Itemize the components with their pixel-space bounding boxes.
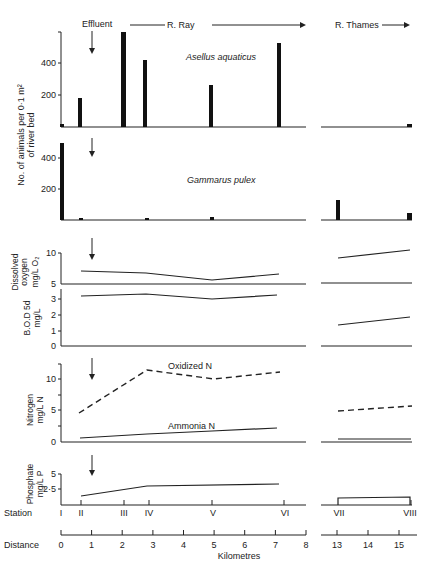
panel-dissolved-oxygen: Dissolved oxygen mg/L O₂ 10 5 [10, 248, 412, 290]
svg-text:II: II [78, 508, 83, 518]
svg-text:III: III [120, 508, 128, 518]
effluent-arrow-icon [89, 254, 95, 260]
svg-text:mg/L O₂: mg/L O₂ [30, 257, 40, 288]
svg-text:Phosphate: Phosphate [25, 463, 35, 504]
oxidized-n-label: Oxidized N [168, 361, 212, 371]
header: Effluent R. Ray R. Thames [82, 19, 410, 30]
svg-text:3: 3 [150, 540, 155, 550]
svg-text:No. of animals per 0·1 m²: No. of animals per 0·1 m² [16, 84, 26, 186]
svg-text:VI: VI [281, 508, 290, 518]
svg-text:0: 0 [58, 540, 63, 550]
svg-text:1: 1 [89, 540, 94, 550]
svg-text:6: 6 [242, 540, 247, 550]
svg-text:7: 7 [273, 540, 278, 550]
svg-text:3: 3 [51, 294, 56, 304]
oxidized-n-line-thames [338, 406, 412, 411]
svg-text:mg/L N: mg/L N [35, 396, 45, 423]
svg-text:4: 4 [181, 540, 186, 550]
svg-text:400: 400 [41, 153, 56, 163]
effluent-label: Effluent [82, 19, 113, 29]
panel-nitrogen: Nitrogen mg/L N 10 5 0 Oxidized N Ammoni… [25, 361, 412, 447]
ammonia-n-label: Ammonia N [168, 421, 215, 431]
panel-phosphate: Phosphate mg/L P 5 2·5 [25, 463, 412, 505]
svg-text:mg/L: mg/L [32, 308, 42, 327]
svg-text:2·5: 2·5 [43, 484, 56, 494]
r-ray-label: R. Ray [167, 20, 195, 30]
svg-text:200: 200 [41, 90, 56, 100]
svg-text:2: 2 [120, 540, 125, 550]
svg-text:2: 2 [51, 310, 56, 320]
svg-text:Nitrogen: Nitrogen [25, 394, 35, 426]
svg-text:IV: IV [145, 508, 154, 518]
svg-text:VII: VII [333, 508, 344, 518]
asellus-title: Asellus aquaticus [185, 52, 257, 62]
effluent-arrow-icon [89, 374, 95, 380]
effluent-arrow-icon [89, 151, 95, 157]
svg-text:14: 14 [363, 540, 373, 550]
panel-asellus: 400 200 Asellus aquaticus [41, 32, 412, 127]
svg-text:VIII: VIII [403, 508, 417, 518]
distance-axis: Distance 0 1 2 3 4 5 6 7 8 13 [4, 530, 417, 561]
asellus-bars [60, 32, 412, 127]
bod-line [81, 294, 277, 299]
svg-text:400: 400 [41, 58, 56, 68]
svg-text:10: 10 [46, 248, 56, 258]
kilometres-label: Kilometres [218, 551, 261, 561]
gammarus-title: Gammarus pulex [187, 175, 256, 185]
svg-text:15: 15 [394, 540, 404, 550]
svg-text:5: 5 [51, 279, 56, 289]
r-ray-arrow-head-icon [300, 22, 306, 28]
svg-text:5: 5 [51, 405, 56, 415]
svg-text:V: V [210, 508, 216, 518]
river-pollution-chart: Effluent R. Ray R. Thames No. of animals… [0, 0, 434, 574]
station-ticks [81, 500, 411, 505]
svg-text:B.O.D 5d: B.O.D 5d [22, 300, 32, 335]
stations-row: Station I II III IV V VI VII VIII [4, 508, 417, 518]
panel-bod: B.O.D 5d mg/L 3 2 1 0 [22, 289, 412, 351]
effluent-arrow-icon [89, 48, 95, 54]
do-line [81, 271, 279, 280]
svg-text:5: 5 [212, 540, 217, 550]
oxidized-n-line [79, 370, 280, 413]
svg-text:0: 0 [51, 437, 56, 447]
svg-text:200: 200 [41, 184, 56, 194]
r-thames-arrow-head-icon [404, 22, 410, 28]
svg-text:1: 1 [51, 326, 56, 336]
svg-text:oxygen: oxygen [19, 258, 29, 286]
svg-text:5: 5 [51, 469, 56, 479]
bod-line-thames [338, 317, 410, 325]
svg-text:of river bed: of river bed [26, 112, 36, 157]
phosphate-line-thames [338, 497, 410, 505]
effluent-arrows [89, 31, 95, 476]
effluent-arrow-icon [89, 470, 95, 476]
svg-text:10: 10 [46, 374, 56, 384]
animals-ylabel: No. of animals per 0·1 m² of river bed [16, 84, 36, 186]
svg-text:8: 8 [303, 540, 308, 550]
panel-gammarus: 400 200 Gammarus pulex [41, 143, 412, 220]
station-label: Station [4, 508, 32, 518]
svg-text:0: 0 [51, 341, 56, 351]
do-line-thames [338, 250, 410, 258]
phosphate-line [81, 484, 279, 496]
distance-label: Distance [4, 540, 39, 550]
svg-text:I: I [60, 508, 63, 518]
r-thames-label: R. Thames [335, 20, 379, 30]
svg-text:13: 13 [332, 540, 342, 550]
